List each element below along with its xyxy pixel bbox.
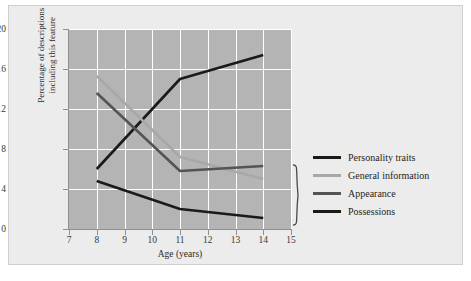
y-tick-label: 20 xyxy=(0,24,6,34)
y-tick-label-wrap: 8 xyxy=(9,149,62,159)
plot-area xyxy=(69,29,291,229)
legend-swatch-line-icon xyxy=(313,192,341,195)
series-line xyxy=(97,181,264,218)
y-tick-label: 4 xyxy=(0,184,6,194)
legend-label: Appearance xyxy=(348,188,396,199)
legend-item[interactable]: Personality traits xyxy=(313,148,463,166)
series-line xyxy=(97,76,264,179)
x-tick-label: 13 xyxy=(224,235,248,245)
y-tick-label-wrap: 0 xyxy=(9,229,62,239)
brace-annotation-icon xyxy=(292,164,304,226)
y-tick-label-wrap: 12 xyxy=(9,109,62,119)
legend-label: General information xyxy=(348,170,429,181)
y-tick-label-wrap: 16 xyxy=(9,69,62,79)
x-tick-label: 14 xyxy=(251,235,275,245)
legend-item[interactable]: Appearance xyxy=(313,184,463,202)
legend-swatch-line-icon xyxy=(313,210,341,213)
series-line xyxy=(97,93,264,171)
y-tick-label-wrap: 4 xyxy=(9,189,62,199)
x-axis-title: Age (years) xyxy=(69,249,291,259)
y-axis-title-line1: Percentage of descriptions xyxy=(36,8,46,103)
series-line xyxy=(97,55,264,169)
x-tick-label: 15 xyxy=(279,235,303,245)
x-tick-label: 12 xyxy=(196,235,220,245)
x-tick-label: 11 xyxy=(168,235,192,245)
y-tick-label: 0 xyxy=(0,224,6,234)
legend-item[interactable]: Possessions xyxy=(313,202,463,220)
legend: Personality traitsGeneral informationApp… xyxy=(313,148,463,220)
legend-label: Possessions xyxy=(348,206,395,217)
y-tick-label-wrap: 20 xyxy=(9,29,62,39)
x-tick-label: 9 xyxy=(113,235,137,245)
y-tick-label: 12 xyxy=(0,104,6,114)
x-tick-label: 8 xyxy=(85,235,109,245)
y-tick-label: 8 xyxy=(0,144,6,154)
x-tick-label: 7 xyxy=(57,235,81,245)
legend-label: Personality traits xyxy=(348,152,416,163)
legend-item[interactable]: General information xyxy=(313,166,463,184)
figure-panel: Percentage of descriptions including thi… xyxy=(8,5,463,265)
y-tick-label: 16 xyxy=(0,64,6,74)
legend-swatch-line-icon xyxy=(313,156,341,159)
legend-swatch-line-icon xyxy=(313,174,341,177)
x-tick-label: 10 xyxy=(140,235,164,245)
data-series-layer xyxy=(69,29,291,229)
